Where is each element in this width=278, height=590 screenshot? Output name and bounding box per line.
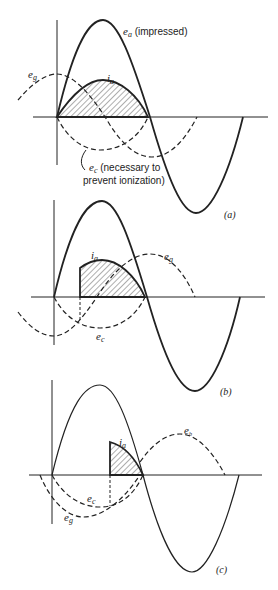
anode-voltage-curve [52,385,239,572]
anode-current-area [80,260,145,297]
label-eg: eg [28,68,37,82]
critical-grid-voltage-curve [54,297,145,328]
label-ec-note: prevent ionization) [83,175,165,186]
label-eb: eb [184,424,192,437]
label-eg: eg [64,511,73,525]
bias-voltage-curve [140,434,225,475]
anode-current-area [57,80,148,117]
panel-c: ia eb ec eg (c) [29,380,262,576]
label-ec: ec [87,492,96,506]
label-ia: ia [119,436,126,450]
label-ia: ia [107,72,114,86]
panel-a: ea (impressed) eg ia ec (necessary to pr… [18,20,268,221]
label-ia: ia [91,249,98,263]
label-ec: ec (necessary to [89,161,161,175]
thyratron-waveform-diagram: ea (impressed) eg ia ec (necessary to pr… [0,0,278,590]
ec-pointer [81,150,86,170]
label-ea: ea (impressed) [123,25,187,39]
caption-c: (c) [216,564,228,576]
caption-b: (b) [220,386,232,398]
panel-b: ia eg ec (b) [18,200,265,398]
critical-grid-voltage-curve [52,475,143,507]
caption-a: (a) [224,209,236,221]
critical-grid-voltage-curve [57,117,148,150]
label-eg: eg [164,250,173,264]
label-ec: ec [96,330,105,344]
